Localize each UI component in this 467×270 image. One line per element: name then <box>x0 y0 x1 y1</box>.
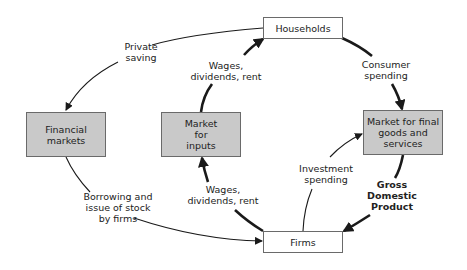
wages-upper-label: Wages, dividends, rent <box>186 60 266 82</box>
households-box: Households <box>263 17 343 39</box>
investment-spending-label: Investment spending <box>296 163 356 185</box>
market-for-inputs-box: Market for inputs <box>161 112 241 157</box>
financial-markets-label: Financial markets <box>45 124 87 146</box>
financial-markets-box: Financial markets <box>26 112 106 157</box>
wages-lower-label: Wages, dividends, rent <box>183 184 263 206</box>
arrow-private-saving <box>152 28 263 45</box>
arrow-wages-to-market <box>235 210 263 231</box>
arrow-investment-spending <box>303 189 312 231</box>
arrow-wages-to-households <box>244 39 263 55</box>
market-final-goods-label: Market for final goods and services <box>367 116 439 149</box>
consumer-spending-label: Consumer spending <box>356 59 416 81</box>
borrowing-label: Borrowing and issue of stock by firms <box>80 191 156 224</box>
firms-box: Firms <box>263 231 343 253</box>
firms-label: Firms <box>290 237 315 248</box>
market-final-goods-box: Market for final goods and services <box>363 110 443 155</box>
households-label: Households <box>275 23 330 34</box>
market-for-inputs-label: Market for inputs <box>185 118 218 151</box>
gdp-label: Gross Domestic Product <box>366 179 418 212</box>
arrow-gdp <box>395 155 403 178</box>
arrow-consumer-spending <box>342 38 372 56</box>
circular-flow-diagram: Households Firms Financial markets Marke… <box>0 0 467 270</box>
private-saving-label: Private saving <box>118 41 164 63</box>
arrow-borrowing <box>66 157 90 192</box>
